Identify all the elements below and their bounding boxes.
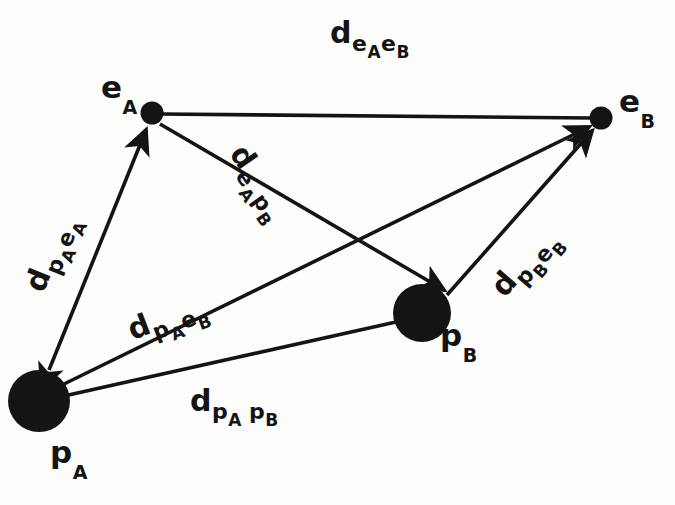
node-pa[interactable] xyxy=(8,370,70,432)
edge-label-d-pa-pb: dpApB xyxy=(190,386,279,416)
node-label-pb: pB xyxy=(440,320,478,351)
node-label-pa: pA xyxy=(50,437,88,468)
node-ea[interactable] xyxy=(141,102,164,125)
node-eb[interactable] xyxy=(590,107,613,130)
node-label-eb: eB xyxy=(619,86,656,117)
edge-d-ea-pb xyxy=(160,124,444,290)
edge-label-d-ea-eb: deAeB xyxy=(330,18,410,48)
edge-d-ea-eb xyxy=(161,114,592,118)
node-label-ea: eA xyxy=(101,72,138,103)
diagram-canvas: eA eB pA pB deAeB dpAeA deApB dpAeB dpBe… xyxy=(0,0,675,505)
